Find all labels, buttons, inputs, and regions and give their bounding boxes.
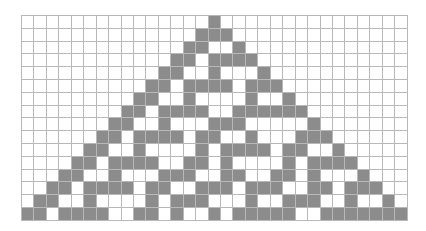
grid-cell <box>221 16 233 29</box>
grid-cell <box>358 29 370 42</box>
grid-cell <box>122 170 134 183</box>
grid-cell <box>184 42 196 55</box>
grid-cell <box>184 170 196 183</box>
grid-cell <box>22 93 34 106</box>
grid-cell <box>72 42 84 55</box>
grid-cell <box>22 170 34 183</box>
grid-cell <box>59 54 71 67</box>
grid-cell <box>345 157 357 170</box>
grid-cell <box>122 182 134 195</box>
grid-cell <box>321 93 333 106</box>
grid-cell <box>308 157 320 170</box>
grid-cell <box>122 16 134 29</box>
grid-cell <box>47 144 59 157</box>
grid-cell <box>383 29 395 42</box>
grid-cell <box>296 106 308 119</box>
grid-cell <box>221 208 233 221</box>
grid-cell <box>59 67 71 80</box>
grid-cell <box>34 93 46 106</box>
grid-cell <box>134 106 146 119</box>
grid-cell <box>59 42 71 55</box>
grid-cell <box>209 157 221 170</box>
grid-cell <box>122 67 134 80</box>
grid-cell <box>22 118 34 131</box>
grid-cell <box>246 208 258 221</box>
grid-cell <box>283 208 295 221</box>
grid-cell <box>321 195 333 208</box>
grid-cell <box>84 182 96 195</box>
grid-cell <box>97 195 109 208</box>
grid-cell <box>84 16 96 29</box>
grid-cell <box>221 67 233 80</box>
grid-cell <box>196 144 208 157</box>
grid-cell <box>171 195 183 208</box>
grid-cell <box>395 144 407 157</box>
grid-cell <box>159 93 171 106</box>
grid-cell <box>72 131 84 144</box>
grid-cell <box>72 16 84 29</box>
grid-cell <box>146 118 158 131</box>
grid-cell <box>196 157 208 170</box>
grid-cell <box>171 80 183 93</box>
grid-cell <box>209 16 221 29</box>
grid-cell <box>59 144 71 157</box>
grid-cell <box>184 182 196 195</box>
grid-cell <box>383 182 395 195</box>
grid-cell <box>97 131 109 144</box>
grid-cell <box>184 195 196 208</box>
cellular-automaton-grid <box>21 15 408 221</box>
grid-cell <box>283 80 295 93</box>
grid-cell <box>72 195 84 208</box>
grid-cell <box>358 118 370 131</box>
grid-cell <box>383 67 395 80</box>
grid-cell <box>47 67 59 80</box>
grid-cell <box>221 29 233 42</box>
grid-cell <box>370 93 382 106</box>
grid-cell <box>84 170 96 183</box>
grid-cell <box>184 157 196 170</box>
grid-cell <box>109 42 121 55</box>
grid-cell <box>134 170 146 183</box>
grid-cell <box>233 182 245 195</box>
grid-cell <box>308 131 320 144</box>
grid-cell <box>395 93 407 106</box>
grid-cell <box>395 16 407 29</box>
grid-cell <box>34 131 46 144</box>
grid-cell <box>321 118 333 131</box>
grid-cell <box>233 42 245 55</box>
grid-cell <box>209 195 221 208</box>
grid-cell <box>321 131 333 144</box>
grid-cell <box>321 54 333 67</box>
grid-cell <box>345 54 357 67</box>
grid-cell <box>358 170 370 183</box>
grid-cell <box>333 42 345 55</box>
grid-cell <box>84 54 96 67</box>
grid-cell <box>47 16 59 29</box>
grid-cell <box>159 67 171 80</box>
grid-cell <box>308 16 320 29</box>
grid-cell <box>97 118 109 131</box>
grid-cell <box>59 118 71 131</box>
grid-cell <box>47 182 59 195</box>
grid-cell <box>296 157 308 170</box>
grid-cell <box>370 157 382 170</box>
grid-cell <box>34 67 46 80</box>
grid-cell <box>345 67 357 80</box>
grid-cell <box>358 157 370 170</box>
grid-cell <box>221 106 233 119</box>
grid-cell <box>296 80 308 93</box>
grid-cell <box>59 93 71 106</box>
grid-cell <box>184 67 196 80</box>
grid-cell <box>146 80 158 93</box>
grid-cell <box>233 195 245 208</box>
grid-cell <box>171 157 183 170</box>
grid-cell <box>283 106 295 119</box>
grid-cell <box>47 54 59 67</box>
grid-cell <box>196 208 208 221</box>
grid-cell <box>358 42 370 55</box>
grid-cell <box>184 16 196 29</box>
grid-cell <box>196 93 208 106</box>
grid-cell <box>34 208 46 221</box>
grid-cell <box>134 195 146 208</box>
grid-cell <box>395 195 407 208</box>
